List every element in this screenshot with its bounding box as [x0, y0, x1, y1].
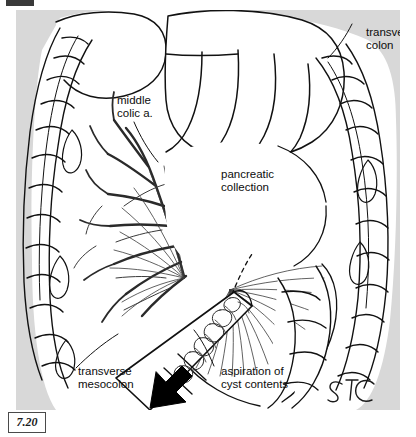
- label-transverse-colon: transverse colon: [366, 26, 400, 51]
- label-transverse-mesocolon: transverse mesocolon: [78, 365, 134, 390]
- illustration-plate: transverse colon middle colic a. pancrea…: [16, 10, 400, 410]
- label-pancreatic-collection: pancreatic collection: [221, 168, 274, 193]
- page-edge-bar: [6, 0, 34, 6]
- label-aspiration-of-cyst-contents: aspiration of cyst contents: [221, 365, 288, 390]
- pancreatic-collection: [165, 142, 329, 278]
- label-middle-colic-artery: middle colic a.: [117, 94, 153, 119]
- figure-root: transverse colon middle colic a. pancrea…: [0, 0, 416, 437]
- figure-number: 7.20: [8, 412, 46, 433]
- anatomical-illustration: [16, 10, 400, 410]
